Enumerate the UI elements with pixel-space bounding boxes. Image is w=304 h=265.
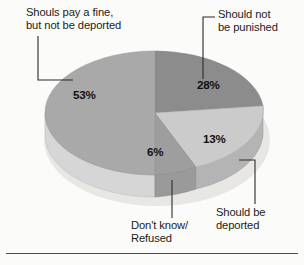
callout-label-dont-know-refused-line1: Don't know/ [131, 219, 188, 231]
callout-label-should-not-be-punished-line2: be punished [218, 21, 278, 33]
callout-label-should-be-deported-line2: deported [216, 219, 259, 231]
slice-value-dont-know-refused: 6% [147, 145, 163, 158]
callout-label-should-be-deported-line1: Should be [216, 206, 266, 218]
callout-label-dont-know-refused-line2: Refused [131, 232, 172, 244]
callout-label-should-pay-fine-line2: but not be deported [26, 19, 121, 31]
pie-chart-figure: Shouls pay a fine,but not be deported Sh… [0, 0, 304, 265]
callout-label-should-be-deported: Should bedeported [216, 206, 266, 232]
callout-label-should-pay-fine-line1: Shouls pay a fine, [26, 6, 113, 18]
leader-line-fine [38, 36, 73, 80]
slice-value-should-pay-fine: 53% [73, 88, 96, 101]
callout-label-should-not-be-punished-line1: Should not [218, 8, 271, 20]
callout-label-should-pay-fine: Shouls pay a fine,but not be deported [26, 6, 121, 32]
slice-value-should-not-be-punished: 28% [197, 78, 220, 91]
callout-label-dont-know-refused: Don't know/Refused [131, 219, 188, 245]
callout-label-should-not-be-punished: Should notbe punished [218, 8, 278, 34]
slice-value-should-be-deported: 13% [203, 132, 226, 145]
